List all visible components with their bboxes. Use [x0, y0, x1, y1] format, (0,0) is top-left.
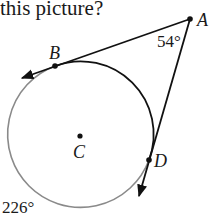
point-B [52, 63, 58, 69]
arc-measure-label: 226° [2, 199, 34, 216]
point-A [187, 16, 193, 22]
label-D: D [154, 152, 167, 170]
question-text: this picture? [0, 0, 103, 21]
point-D [146, 157, 152, 163]
label-A: A [197, 11, 208, 29]
label-C: C [73, 143, 85, 161]
minor-arc [55, 61, 154, 160]
geometry-diagram: this picture? A 54° B C D 226° [0, 0, 221, 220]
label-B: B [49, 44, 60, 62]
point-C-center [77, 133, 82, 138]
diagram-svg [0, 0, 221, 220]
angle-label-A: 54° [157, 33, 181, 50]
